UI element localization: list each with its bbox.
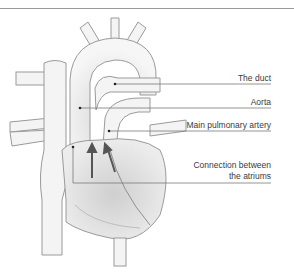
- heart-body: [10, 18, 186, 266]
- heart-illustration: [0, 0, 294, 280]
- label-main-pulmonary-artery: Main pulmonary artery: [186, 120, 271, 131]
- pulmonary-branch-right: [150, 120, 186, 136]
- inferior-vessel: [114, 238, 126, 266]
- label-aorta: Aorta: [251, 97, 271, 108]
- label-connection-atriums-line1: Connection between: [193, 160, 271, 171]
- label-the-duct: The duct: [238, 73, 271, 84]
- label-connection-atriums-line2: the atriums: [229, 171, 271, 182]
- aortic-branch-2: [111, 18, 119, 40]
